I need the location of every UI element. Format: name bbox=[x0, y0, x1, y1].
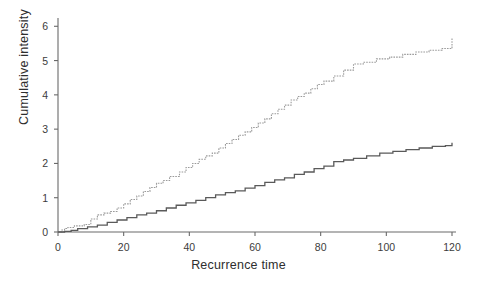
x-axis-title: Recurrence time bbox=[0, 258, 477, 272]
x-tick-label: 60 bbox=[249, 242, 261, 253]
y-tick-label: 5 bbox=[28, 55, 48, 66]
y-tick-label: 3 bbox=[28, 124, 48, 135]
y-tick-label: 2 bbox=[28, 158, 48, 169]
y-axis-ticks bbox=[54, 26, 58, 232]
x-tick-label: 0 bbox=[55, 242, 61, 253]
x-tick-label: 40 bbox=[183, 242, 195, 253]
x-tick-label: 80 bbox=[315, 242, 327, 253]
axis-lines bbox=[58, 18, 456, 232]
series-line-lower-cumulative-intensity bbox=[58, 143, 452, 232]
y-tick-label: 0 bbox=[28, 227, 48, 238]
x-tick-label: 120 bbox=[443, 242, 461, 253]
y-tick-label: 1 bbox=[28, 192, 48, 203]
y-tick-label: 4 bbox=[28, 90, 48, 101]
x-axis-ticks bbox=[58, 232, 452, 236]
x-tick-label: 100 bbox=[378, 242, 396, 253]
series-line-upper-cumulative-intensity bbox=[58, 38, 452, 232]
y-axis-title: Cumulative intensity bbox=[17, 0, 31, 157]
x-tick-label: 20 bbox=[118, 242, 130, 253]
plot-canvas bbox=[0, 0, 477, 281]
chart-figure: 0123456 020406080100120 Recurrence time … bbox=[0, 0, 477, 281]
y-tick-label: 6 bbox=[28, 21, 48, 32]
data-series-group bbox=[58, 38, 452, 232]
